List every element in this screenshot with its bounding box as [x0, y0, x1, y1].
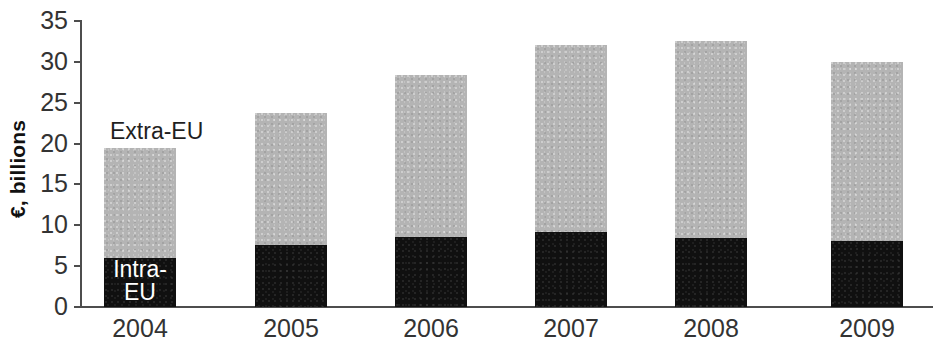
- bar-stack: [831, 62, 903, 307]
- y-axis-tick: [74, 306, 82, 308]
- x-axis-tick-label: 2009: [807, 316, 927, 341]
- x-axis-tick-label: 2005: [231, 316, 351, 341]
- y-axis-tick: [74, 265, 82, 267]
- y-axis-tick: [74, 102, 82, 104]
- y-axis-tick-label: 30: [0, 49, 68, 74]
- intra-eu-label-line2: EU: [104, 281, 176, 304]
- y-axis-tick-label: 20: [0, 131, 68, 156]
- bar-segment-intra-eu: [535, 232, 607, 307]
- y-axis-tick: [74, 224, 82, 226]
- y-axis-tick: [74, 20, 82, 22]
- bar-segment-extra-eu: [831, 62, 903, 241]
- extra-eu-series-label: Extra-EU: [110, 119, 203, 144]
- bar-segment-extra-eu: [535, 45, 607, 232]
- bar-segment-extra-eu: [104, 148, 176, 257]
- bar-segment-intra-eu: [675, 238, 747, 307]
- x-axis-tick-label: 2008: [651, 316, 771, 341]
- y-axis-tick: [74, 183, 82, 185]
- x-axis-tick-label: 2004: [80, 316, 200, 341]
- bar-segment-extra-eu: [255, 113, 327, 245]
- intra-eu-label-line1: Intra-: [113, 256, 167, 282]
- bar-stack: [395, 75, 467, 307]
- bar-segment-intra-eu: [831, 241, 903, 307]
- y-axis-tick-label: 5: [0, 253, 68, 278]
- y-axis-tick-label: 10: [0, 212, 68, 237]
- bar-segment-extra-eu: [395, 75, 467, 237]
- bar-segment-intra-eu: [395, 237, 467, 307]
- bar-stack: [535, 45, 607, 307]
- stacked-bar-chart: €, billions 05101520253035 Extra-EU Intr…: [0, 0, 933, 347]
- y-axis-tick-label: 25: [0, 90, 68, 115]
- x-axis-tick-label: 2006: [371, 316, 491, 341]
- x-axis-tick-label: 2007: [511, 316, 631, 341]
- y-axis-tick-label: 0: [0, 294, 68, 319]
- y-axis-tick: [74, 61, 82, 63]
- bar-stack: [255, 113, 327, 307]
- intra-eu-series-label: Intra- EU: [104, 258, 176, 305]
- x-axis-line: [80, 306, 933, 308]
- y-axis-tick-label: 35: [0, 8, 68, 33]
- bar-segment-extra-eu: [675, 41, 747, 238]
- y-axis-tick: [74, 143, 82, 145]
- y-axis-tick-label: 15: [0, 171, 68, 196]
- bar-stack: [675, 41, 747, 307]
- bar-segment-intra-eu: [255, 245, 327, 307]
